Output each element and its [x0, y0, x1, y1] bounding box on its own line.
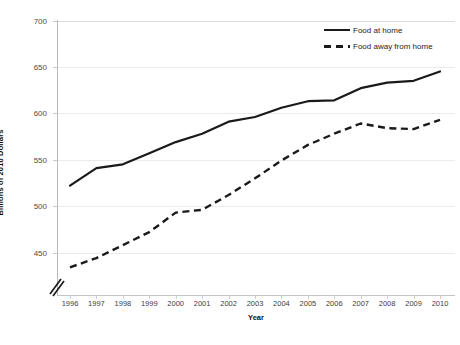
- x-axis-tick-mark: [440, 295, 441, 299]
- chart-legend: Food at home Food away from home: [324, 23, 456, 55]
- x-axis-tick-mark: [202, 295, 203, 299]
- x-axis-tick-mark: [96, 295, 97, 299]
- x-axis-tick-mark: [123, 295, 124, 299]
- legend-item-food-away-from-home: Food away from home: [324, 39, 456, 53]
- line-chart: Billions of 2010 Dollars 450500550600650…: [0, 0, 460, 345]
- legend-item-label: Food at home: [353, 26, 402, 35]
- x-axis-tick-mark: [361, 295, 362, 299]
- x-axis-tick-mark: [387, 295, 388, 299]
- legend-solid-line-icon: [324, 25, 350, 35]
- x-axis-tick-mark: [334, 295, 335, 299]
- x-axis-tick-mark: [414, 295, 415, 299]
- x-axis-tick-mark: [255, 295, 256, 299]
- x-axis-tick-label: 2010: [420, 299, 460, 308]
- legend-item-food-at-home: Food at home: [324, 23, 456, 37]
- x-axis-tick-mark: [308, 295, 309, 299]
- legend-item-label: Food away from home: [353, 42, 433, 51]
- x-axis-tick-mark: [229, 295, 230, 299]
- x-axis-title: Year: [57, 313, 455, 322]
- x-axis-tick-mark: [149, 295, 150, 299]
- x-axis-tick-mark: [281, 295, 282, 299]
- series-line-food-away-from-home: [70, 120, 440, 267]
- x-axis-tick-mark: [70, 295, 71, 299]
- legend-dashed-line-icon: [324, 41, 350, 51]
- x-axis-tick-mark: [176, 295, 177, 299]
